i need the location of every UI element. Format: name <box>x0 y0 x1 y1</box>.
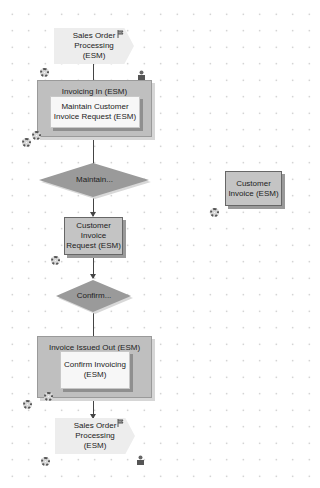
maintain-customer-invoice-request-step[interactable]: Maintain Customer Invoice Request (ESM) <box>50 96 140 128</box>
customer-invoice-object[interactable]: Customer Invoice (ESM) <box>225 171 282 206</box>
confirm-invoicing-label: Confirm Invoicing (ESM) <box>64 360 126 380</box>
person-icon <box>136 455 145 465</box>
gear-icon <box>32 131 41 140</box>
process-flag-icon <box>117 30 126 38</box>
gear-icon <box>22 138 31 147</box>
gear-icon <box>210 208 219 217</box>
gear-icon <box>41 457 50 466</box>
customer-invoice-request-label: Customer Invoice Request (ESM) <box>66 221 121 251</box>
gear-icon <box>40 68 49 77</box>
end-process-label: Sales Order Processing (ESM) <box>74 421 117 451</box>
person-icon <box>137 70 146 80</box>
gear-icon <box>44 392 53 401</box>
process-flag-icon <box>117 419 126 427</box>
maintain-step-label: Maintain Customer Invoice Request (ESM) <box>54 102 136 122</box>
start-process-label: Sales Order Processing (ESM) <box>73 31 116 61</box>
gear-icon <box>51 256 60 265</box>
invoicing-in-title: Invoicing In (ESM) <box>38 87 151 96</box>
confirm-decision-label: Confirm... <box>55 291 133 301</box>
confirm-invoicing-step[interactable]: Confirm Invoicing (ESM) <box>60 351 130 389</box>
gear-icon <box>23 400 32 409</box>
customer-invoice-label: Customer Invoice (ESM) <box>228 179 278 199</box>
maintain-decision-label: Maintain... <box>38 175 151 185</box>
customer-invoice-request-object[interactable]: Customer Invoice Request (ESM) <box>64 217 123 255</box>
